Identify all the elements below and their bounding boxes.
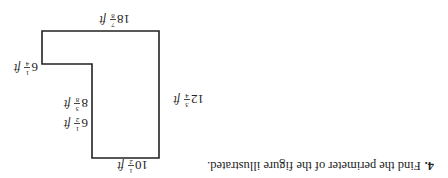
label-right-upper: 6 14 ft <box>14 60 38 76</box>
figure-outline-path <box>42 31 159 158</box>
l-shaped-figure <box>0 0 448 178</box>
label-step: 8 38 ft <box>64 96 88 112</box>
label-right-lower: 6 12 ft <box>64 116 88 132</box>
label-top: 18 78 ft <box>99 12 130 28</box>
worksheet-problem: 4.Find the perimeter of the figure illus… <box>0 0 448 178</box>
figure-outline <box>42 32 159 158</box>
label-left: 12 34 ft <box>173 92 204 108</box>
label-bottom: 10 12 ft <box>117 158 148 174</box>
